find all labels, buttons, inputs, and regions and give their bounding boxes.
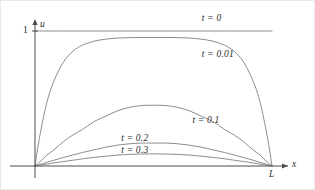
curve-label-t0: t = 0 [202,14,222,24]
curve-t-0.01 [35,37,272,166]
x-axis-label: x [292,160,296,170]
x-end-label-L: L [269,170,274,180]
curve-label-t0-3: t = 0.3 [121,146,148,156]
curve-t-0.1 [35,105,272,166]
plot-area [0,0,315,190]
curves-group [35,31,272,166]
curve-t-0.2 [35,143,272,166]
y-tick-label-one: 1 [23,26,28,36]
curve-label-t0-01: t = 0.01 [202,50,234,60]
x-axis-arrowhead [282,163,288,168]
y-axis-label: u [40,20,45,30]
curve-label-t0-2: t = 0.2 [121,134,148,144]
heat-equation-figure: u x 1 L t = 0 t = 0.01 t = 0.1 t = 0.2 t… [0,0,315,190]
curve-label-t0-1: t = 0.1 [192,116,219,126]
y-axis-arrowhead [32,19,37,25]
